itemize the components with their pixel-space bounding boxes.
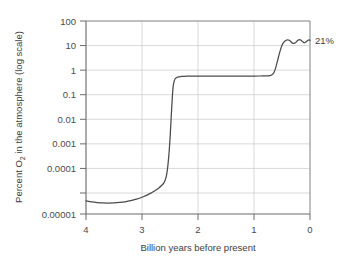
- y-tick-marks: [80, 21, 86, 214]
- x-tick-labels: 4 3 2 1 0: [83, 224, 312, 235]
- y-tick-label: 10: [65, 40, 76, 51]
- x-axis-title: Billion years before present: [140, 242, 255, 253]
- y-tick-label: 0.01: [58, 114, 77, 125]
- oxygen-level-annotation: 21%: [315, 35, 335, 46]
- y-tick-label: 0.00001: [42, 209, 76, 220]
- x-tick-label: 2: [195, 224, 200, 235]
- y-axis-title-suffix: in the atmosphere (log scale): [13, 31, 24, 156]
- x-tick-label: 4: [83, 224, 88, 235]
- x-tick-label: 3: [139, 224, 144, 235]
- y-axis-title: Percent O2 in the atmosphere (log scale): [13, 31, 26, 203]
- oxygen-history-figure: 100 10 1 0.1 0.01 0.001 0.0001 0.00001 4…: [0, 0, 342, 259]
- y-axis-title-prefix: Percent O: [13, 160, 24, 203]
- y-tick-label: 0.0001: [47, 163, 76, 174]
- y-tick-label: 1: [71, 65, 76, 76]
- y-tick-label: 100: [60, 16, 76, 27]
- y-tick-label: 0.1: [63, 89, 76, 100]
- chart-canvas: 100 10 1 0.1 0.01 0.001 0.0001 0.00001 4…: [0, 0, 342, 259]
- y-tick-label: 0.001: [52, 138, 76, 149]
- y-tick-labels: 100 10 1 0.1 0.01 0.001 0.0001 0.00001: [42, 16, 76, 220]
- x-tick-label: 0: [307, 224, 312, 235]
- x-tick-label: 1: [251, 224, 256, 235]
- x-tick-marks: [86, 214, 310, 220]
